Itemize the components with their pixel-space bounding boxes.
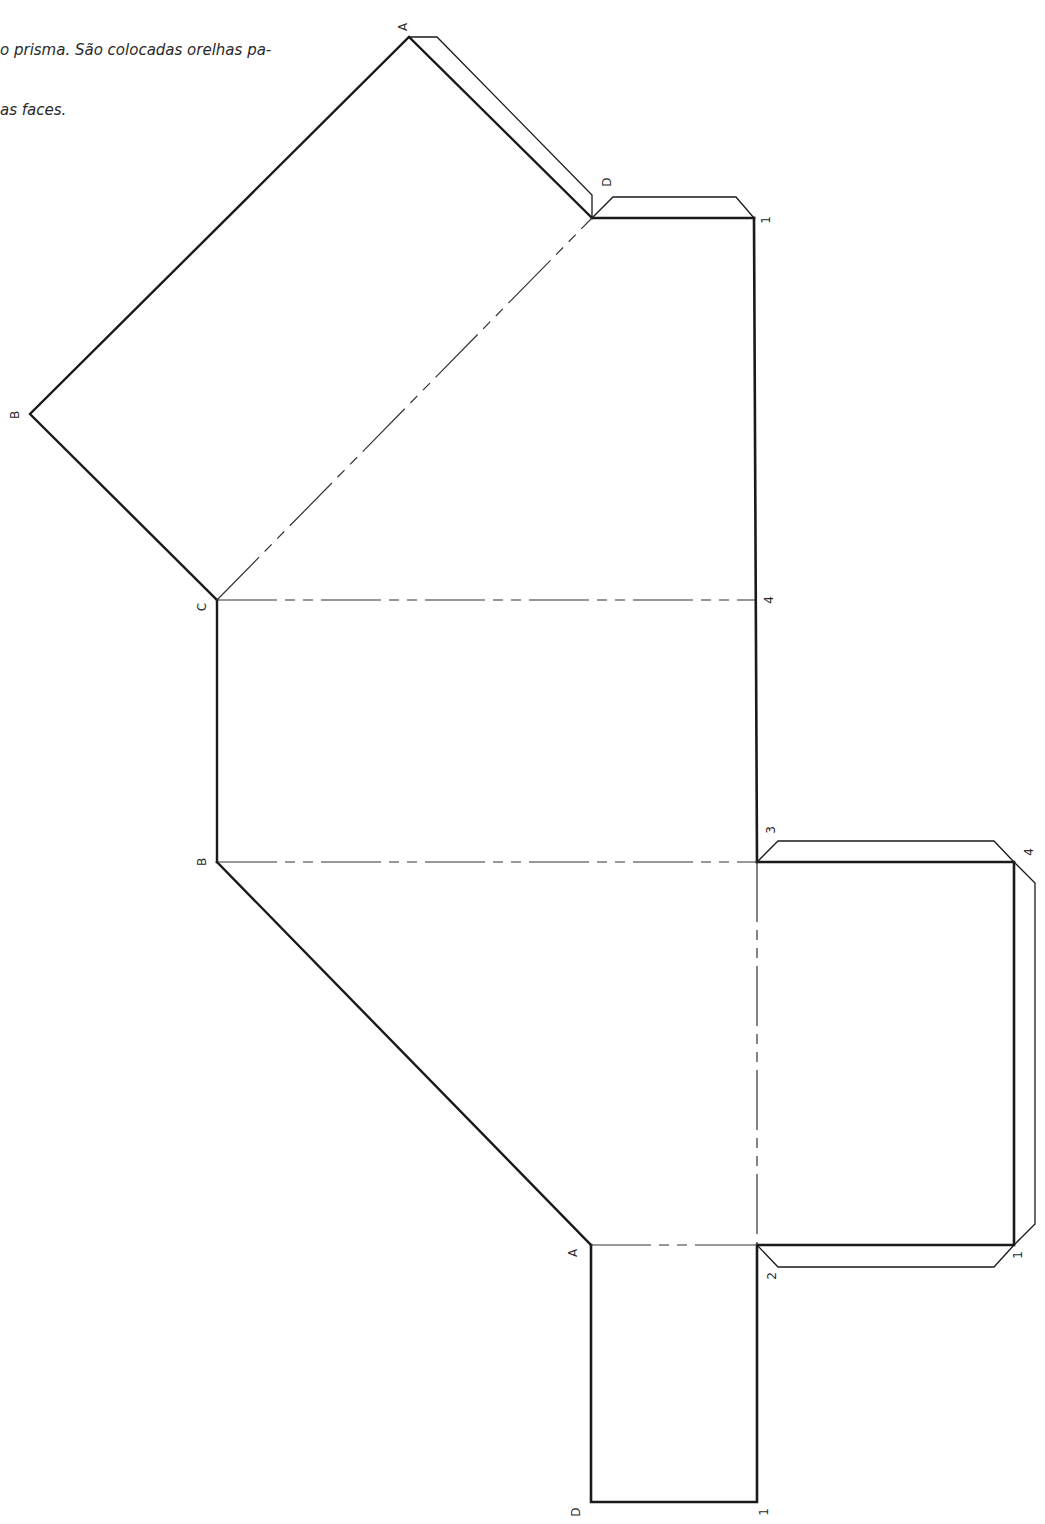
label-a-top: A [396,22,410,31]
bottom-rect [591,1245,757,1502]
prism-net-diagram: A D 1 B C 4 B 3 4 A 2 1 D 1 [0,0,1045,1524]
label-a-bottom: A [566,1248,580,1257]
edge-1-3 [754,218,757,862]
label-1-top: 1 [759,216,773,224]
flap-4-1 [1014,862,1035,1245]
label-1-right: 1 [1011,1251,1025,1259]
label-4-right: 4 [1022,848,1036,856]
label-4-mid: 4 [762,596,776,604]
label-3: 3 [764,826,778,834]
flap-3-4 [757,841,1014,862]
tilted-face-outline [30,37,592,600]
right-square [757,862,1014,1245]
label-d-top: D [600,177,614,186]
edge-b-a [217,862,591,1245]
flap-d1 [592,197,754,218]
label-d-bottom: D [569,1507,583,1516]
label-b-left: B [8,411,22,419]
label-2: 2 [765,1272,779,1280]
flap-2-1 [757,1245,1014,1267]
label-b-mid: B [195,858,209,866]
label-c-mid: C [195,603,209,611]
fold-line-c-d [217,218,592,600]
label-1-bottom: 1 [757,1508,771,1516]
